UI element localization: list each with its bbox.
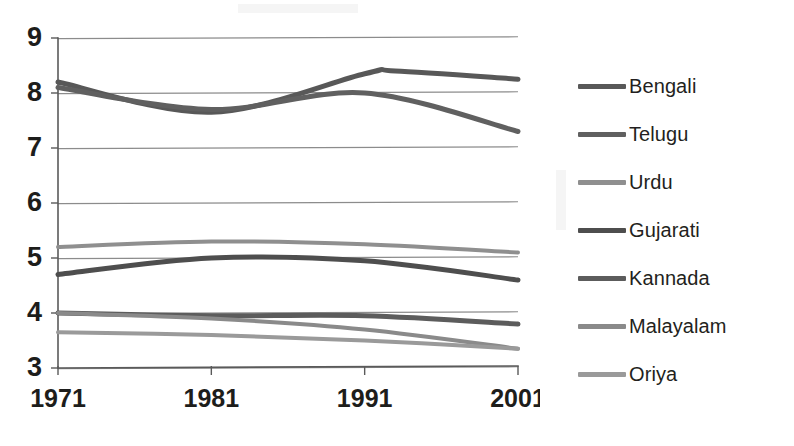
x-tick-label-1971: 1971 [30, 384, 86, 412]
legend-item-telugu[interactable]: Telugu [578, 110, 794, 158]
legend-label-telugu: Telugu [629, 123, 689, 146]
y-tick-label-4: 4 [27, 297, 42, 327]
scan-artifact-edge [556, 170, 566, 230]
legend-label-malayalam: Malayalam [629, 315, 727, 338]
series-line-bengali [58, 69, 518, 112]
chart-legend: BengaliTeluguUrduGujaratiKannadaMalayala… [578, 62, 794, 398]
legend-swatch-urdu [578, 180, 626, 185]
series-line-gujarati [58, 257, 518, 280]
y-tick-label-7: 7 [27, 132, 42, 162]
series-line-telugu [58, 88, 518, 132]
y-tick-label-6: 6 [27, 187, 42, 217]
gridline-y-7 [58, 147, 518, 149]
legend-label-urdu: Urdu [629, 171, 673, 194]
series-group [58, 69, 518, 348]
y-tick-label-9: 9 [27, 22, 42, 52]
chart-screenshot: 9876543 1971198119912001 BengaliTeluguUr… [0, 0, 794, 446]
legend-item-bengali[interactable]: Bengali [578, 62, 794, 110]
x-axis-tick-labels: 1971198119912001 [30, 384, 540, 412]
gridline-y-8 [58, 92, 518, 94]
gridline-y-9 [58, 37, 518, 39]
legend-label-kannada: Kannada [629, 267, 710, 290]
x-tick-label-1981: 1981 [184, 384, 240, 412]
series-line-urdu [58, 241, 518, 252]
legend-label-gujarati: Gujarati [629, 219, 700, 242]
line-chart-plot: 9876543 1971198119912001 [0, 0, 540, 446]
legend-swatch-oriya [578, 372, 626, 377]
y-tick-label-8: 8 [27, 77, 42, 107]
legend-item-gujarati[interactable]: Gujarati [578, 206, 794, 254]
legend-label-oriya: Oriya [629, 363, 677, 386]
legend-swatch-bengali [578, 84, 626, 89]
gridline-y-6 [58, 202, 518, 204]
legend-item-kannada[interactable]: Kannada [578, 254, 794, 302]
x-axis-line [58, 366, 518, 368]
legend-swatch-kannada [578, 276, 626, 281]
y-tick-label-3: 3 [27, 352, 42, 382]
legend-swatch-gujarati [578, 228, 626, 233]
y-axis-tick-labels: 9876543 [27, 22, 42, 382]
legend-item-malayalam[interactable]: Malayalam [578, 302, 794, 350]
legend-item-oriya[interactable]: Oriya [578, 350, 794, 398]
y-tick-label-5: 5 [27, 242, 42, 272]
x-tick-label-2001: 2001 [490, 384, 540, 412]
legend-swatch-telugu [578, 132, 626, 137]
x-tick-label-1991: 1991 [337, 384, 393, 412]
legend-label-bengali: Bengali [629, 75, 696, 98]
legend-swatch-malayalam [578, 324, 626, 329]
legend-item-urdu[interactable]: Urdu [578, 158, 794, 206]
